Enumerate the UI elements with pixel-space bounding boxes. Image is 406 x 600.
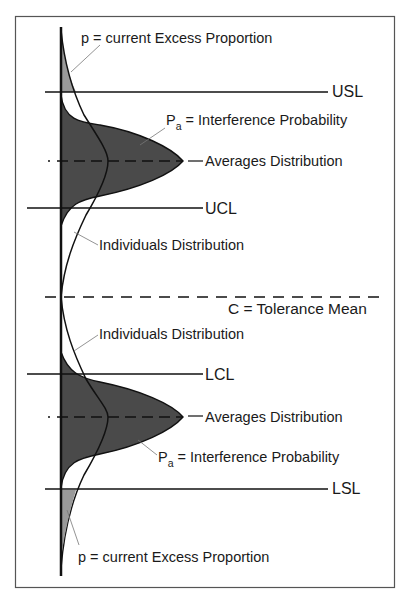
bottom-mean-dot	[48, 416, 50, 418]
label-lcl: LCL	[205, 366, 234, 383]
top-excess-area	[61, 30, 76, 92]
label-top-excess: p = current Excess Proportion	[81, 30, 272, 46]
leader-bottom-interference	[138, 440, 157, 455]
top-mean-dot	[48, 160, 50, 162]
label-top-interference: Pa = Interference Probability	[166, 112, 348, 132]
label-usl: USL	[332, 83, 363, 100]
leader-top-individuals	[74, 232, 98, 245]
label-bottom-interference-rest: = Interference Probability	[174, 449, 340, 465]
label-bottom-interference-p: P	[158, 449, 168, 465]
control-limits-diagram: p = current Excess Proportion USL Pa = I…	[0, 0, 406, 600]
label-bottom-individuals: Individuals Distribution	[99, 326, 244, 342]
label-bottom-excess: p = current Excess Proportion	[78, 549, 269, 565]
label-tolerance-mean: C = Tolerance Mean	[228, 300, 367, 317]
label-bottom-averages: Averages Distribution	[205, 409, 343, 425]
leader-bottom-individuals	[74, 335, 98, 351]
leader-bottom-excess	[67, 510, 79, 545]
label-top-averages: Averages Distribution	[205, 153, 343, 169]
label-ucl: UCL	[205, 200, 237, 217]
label-lsl: LSL	[332, 480, 361, 497]
leader-top-excess	[71, 45, 100, 72]
label-top-individuals: Individuals Distribution	[99, 237, 244, 253]
label-top-interference-p: P	[166, 112, 176, 128]
label-top-interference-rest: = Interference Probability	[182, 112, 348, 128]
bottom-averages-distribution	[61, 352, 183, 488]
label-bottom-interference: Pa = Interference Probability	[158, 449, 340, 469]
